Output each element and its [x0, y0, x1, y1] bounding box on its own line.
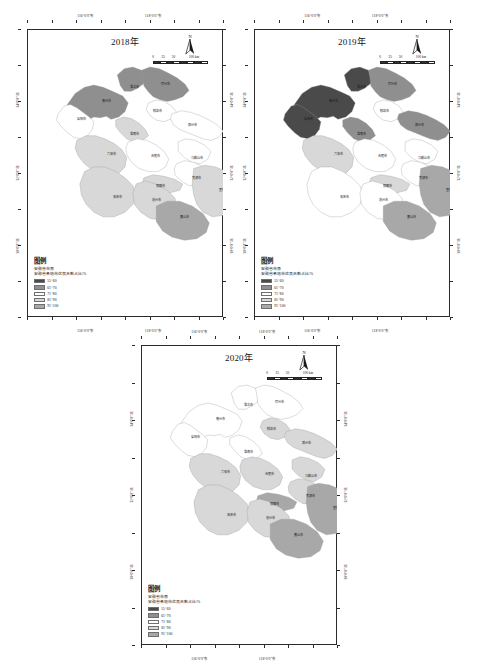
map-region[interactable] — [240, 457, 283, 490]
axis-tick — [337, 336, 338, 339]
map-region[interactable] — [80, 167, 136, 217]
legend-item[interactable]: 81~90 — [34, 297, 86, 302]
legend-swatch — [261, 279, 272, 283]
legend-variable-label: 安徽省各地市优良天数占比/% — [34, 272, 86, 277]
axis-tick — [352, 20, 353, 23]
latitude-label: 32°0'0"北 — [230, 165, 235, 181]
axis-tick — [18, 137, 21, 138]
legend-item[interactable]: 71~80 — [148, 619, 200, 624]
axis-tick — [337, 458, 340, 459]
axis-tick — [264, 645, 265, 648]
axis-tick — [401, 20, 402, 23]
city-label: 阜阳市 — [304, 116, 313, 121]
legend-item[interactable]: 81~90 — [148, 625, 200, 630]
axis-tick — [450, 101, 453, 102]
legend-range-label: 71~80 — [161, 620, 170, 624]
legend-item[interactable]: 55~60 — [261, 279, 313, 284]
axis-tick — [313, 645, 314, 648]
city-label: 六安市 — [334, 151, 343, 156]
axis-tick — [245, 209, 248, 210]
axis-tick — [132, 645, 135, 646]
axis-tick — [303, 317, 304, 320]
axis-tick — [245, 281, 248, 282]
city-label: 合肥市 — [378, 153, 387, 158]
axis-tick — [450, 209, 453, 210]
legend-item[interactable]: 71~80 — [261, 291, 313, 296]
longitude-label: 118°0'0"东 — [372, 328, 389, 333]
axis-tick — [150, 317, 151, 320]
axis-tick — [215, 645, 216, 648]
axis-tick — [76, 20, 77, 23]
axis-tick — [450, 29, 453, 30]
city-label: 宣城市 — [333, 505, 337, 510]
city-label: 黄山市 — [294, 532, 303, 537]
legend-item[interactable]: 55~60 — [34, 279, 86, 284]
figure-root: 116°0'0"东116°0'0"东118°0'0"东118°0'0"东34°0… — [0, 0, 477, 671]
legend-item[interactable]: 91~100 — [148, 632, 200, 637]
map-region[interactable] — [194, 485, 250, 535]
city-label: 淮南市 — [244, 449, 253, 454]
legend-item[interactable]: 81~90 — [261, 297, 313, 302]
city-label: 滁州市 — [188, 122, 197, 127]
legend-range-label: 55~60 — [274, 279, 283, 283]
city-label: 宿州市 — [161, 81, 170, 86]
latitude-label: 34°0'0"北 — [457, 92, 462, 108]
axis-tick — [337, 495, 340, 496]
axis-tick — [223, 20, 224, 23]
legend-range-label: 61~70 — [161, 614, 170, 618]
axis-tick — [27, 317, 28, 320]
axis-tick — [426, 20, 427, 23]
axis-tick — [166, 645, 167, 648]
city-label: 亳州市 — [329, 98, 338, 103]
legend-item[interactable]: 61~70 — [261, 285, 313, 290]
axis-tick — [125, 20, 126, 23]
axis-tick — [223, 245, 226, 246]
map-panel-2019: 116°0'0"东116°0'0"东118°0'0"东118°0'0"东34°0… — [254, 29, 450, 317]
longitude-label: 116°0'0"东 — [304, 328, 321, 333]
axis-tick — [245, 317, 248, 318]
legend-title: 图例 — [34, 256, 86, 265]
longitude-label: 118°0'0"东 — [259, 329, 276, 334]
axis-tick — [450, 281, 453, 282]
axis-tick — [223, 209, 226, 210]
latitude-label: 34°0'0"北 — [242, 92, 247, 108]
legend-title: 图例 — [148, 584, 200, 593]
axis-ticks-bottom — [27, 317, 223, 326]
axis-tick — [264, 336, 265, 339]
city-label: 合肥市 — [151, 153, 160, 158]
city-label: 滁州市 — [302, 440, 311, 445]
legend-item[interactable]: 71~80 — [34, 291, 86, 296]
map-region[interactable] — [353, 139, 396, 172]
legend-item[interactable]: 91~100 — [261, 304, 313, 309]
legend-swatch — [148, 632, 159, 636]
city-label: 马鞍山市 — [305, 473, 317, 478]
longitude-label: 116°0'0"东 — [191, 656, 208, 661]
map-region[interactable] — [230, 435, 263, 460]
latitude-label: 34°0'0"北 — [230, 92, 235, 108]
axis-ticks-top — [27, 20, 223, 29]
map-region[interactable] — [343, 117, 376, 142]
city-label: 亳州市 — [216, 416, 225, 421]
legend-item[interactable]: 61~70 — [34, 285, 86, 290]
legend-range-label: 91~100 — [274, 304, 285, 308]
axis-tick — [101, 317, 102, 320]
legend-item[interactable]: 61~70 — [148, 613, 200, 618]
legend-swatch — [261, 298, 272, 302]
longitude-label: 116°0'0"东 — [191, 329, 208, 334]
axis-tick — [27, 20, 28, 23]
city-label: 宣城市 — [219, 187, 223, 192]
legend-classes: 55~6061~7071~8081~9091~100 — [261, 279, 313, 310]
longitude-label: 116°0'0"东 — [304, 13, 321, 18]
city-label: 黄山市 — [180, 214, 189, 219]
axis-tick — [223, 317, 226, 318]
map-region[interactable] — [126, 139, 169, 172]
legend-item[interactable]: 55~60 — [148, 607, 200, 612]
legend-item[interactable]: 91~100 — [34, 304, 86, 309]
axis-tick — [125, 317, 126, 320]
axis-tick — [450, 137, 453, 138]
map-region[interactable] — [116, 117, 149, 142]
legend-swatch — [148, 626, 159, 630]
legend-swatch — [261, 304, 272, 308]
map-region[interactable] — [307, 167, 363, 217]
legend-swatch — [261, 292, 272, 296]
